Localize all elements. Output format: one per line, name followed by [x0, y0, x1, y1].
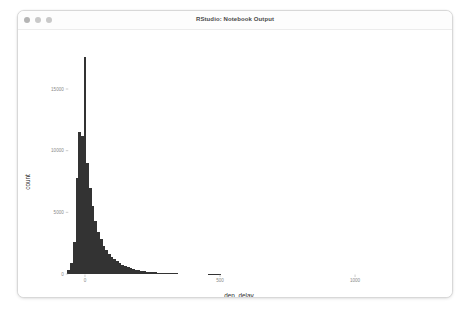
y-axis-title: count	[24, 174, 31, 190]
histogram-bar	[173, 273, 176, 274]
histogram-bar	[175, 273, 178, 274]
histogram-plot: 050001000015000 05001000 count dep_delay	[18, 30, 452, 298]
y-tick-label: 5000	[54, 210, 65, 215]
histogram-bar	[81, 136, 84, 274]
histogram-bar	[167, 273, 170, 274]
histogram-bar	[92, 206, 95, 274]
histogram-bar	[148, 272, 151, 274]
histogram-bar	[119, 263, 122, 274]
x-tick-label: 500	[216, 278, 224, 283]
histogram-bar	[211, 274, 214, 275]
histogram-bar	[70, 263, 73, 274]
histogram-bar	[132, 269, 135, 274]
histogram-bar	[127, 267, 130, 274]
histogram-bar	[200, 274, 203, 275]
histogram-bar	[202, 274, 205, 275]
x-axis-title: dep_delay	[224, 292, 254, 298]
histogram-bar	[151, 272, 154, 274]
histogram-bar	[138, 270, 141, 274]
histogram-bar	[170, 273, 173, 274]
histogram-bar	[86, 163, 89, 274]
plot-canvas: 050001000015000 05001000 count dep_delay	[18, 30, 452, 298]
histogram-bar	[208, 274, 211, 275]
histogram-bar	[130, 268, 133, 274]
histogram-bar	[76, 178, 79, 274]
histogram-bar	[108, 254, 111, 274]
histogram-bar	[111, 257, 114, 274]
histogram-bar	[219, 274, 222, 275]
histogram-bar	[121, 265, 124, 274]
histogram-bar	[135, 270, 138, 274]
histogram-bar	[94, 221, 97, 274]
histogram-bar	[213, 274, 216, 275]
histogram-bar	[159, 273, 162, 274]
x-axis: 05001000	[84, 275, 361, 284]
y-axis: 050001000015000	[51, 87, 68, 277]
y-tick-label: 10000	[51, 148, 64, 153]
histogram-bar	[73, 242, 76, 274]
histogram-bar	[157, 273, 160, 274]
histogram-bar	[105, 250, 108, 274]
histogram-bar	[154, 272, 157, 274]
histogram-bar	[116, 261, 119, 274]
histogram-bar	[197, 274, 200, 275]
histogram-bar	[181, 274, 184, 275]
histogram-bar	[124, 266, 127, 274]
histogram-bar	[192, 274, 195, 275]
y-tick-label: 0	[61, 272, 64, 277]
histogram-bar	[146, 272, 149, 274]
histogram-bar	[97, 232, 100, 274]
y-tick-label: 15000	[51, 87, 64, 92]
histogram-bar	[184, 274, 187, 275]
x-tick-label: 1000	[350, 278, 361, 283]
histogram-bar	[178, 274, 181, 275]
rstudio-notebook-window: RStudio: Notebook Output 050001000015000…	[17, 10, 453, 298]
histogram-bar	[165, 273, 168, 274]
histogram-bar	[189, 274, 192, 275]
histogram-bar	[143, 271, 146, 274]
window-titlebar[interactable]: RStudio: Notebook Output	[18, 11, 452, 30]
histogram-bar	[100, 239, 103, 274]
histogram-bar	[140, 271, 143, 274]
histogram-bar	[84, 57, 87, 274]
histogram-bars	[67, 57, 221, 275]
histogram-bar	[194, 274, 197, 275]
histogram-bar	[162, 273, 165, 274]
histogram-bar	[89, 188, 92, 274]
histogram-bar	[216, 274, 219, 275]
histogram-bar	[186, 274, 189, 275]
histogram-bar	[103, 246, 106, 274]
x-tick-label: 0	[84, 278, 87, 283]
histogram-bar	[205, 274, 208, 275]
histogram-bar	[113, 259, 116, 274]
window-title: RStudio: Notebook Output	[18, 16, 452, 22]
histogram-bar	[67, 270, 70, 274]
histogram-bar	[78, 132, 81, 274]
